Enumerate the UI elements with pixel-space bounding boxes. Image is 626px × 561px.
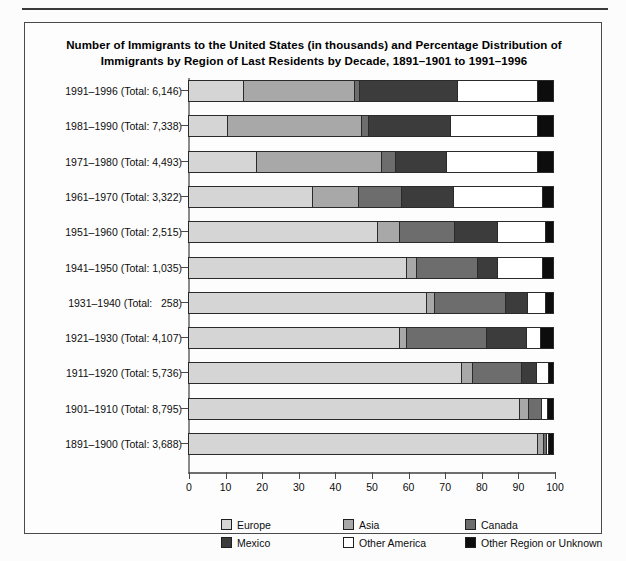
stacked-bar[interactable] bbox=[188, 362, 554, 384]
bar-segment-asia[interactable] bbox=[228, 116, 362, 136]
bar-segment-other-region-or-unknown[interactable] bbox=[548, 399, 553, 419]
bar-row-label: 1961–1970 (Total: 3,322) bbox=[0, 186, 182, 208]
bar-segment-other-america[interactable] bbox=[537, 363, 550, 383]
bar-segment-other-region-or-unknown[interactable] bbox=[538, 152, 553, 172]
bar-segment-asia[interactable] bbox=[244, 81, 355, 101]
bar-segment-mexico[interactable] bbox=[402, 187, 454, 207]
y-axis-tick bbox=[181, 125, 188, 126]
stacked-bar[interactable] bbox=[188, 80, 554, 102]
legend-swatch-icon bbox=[221, 519, 232, 530]
bar-segment-europe[interactable] bbox=[189, 187, 313, 207]
bar-segment-asia[interactable] bbox=[400, 328, 407, 348]
bar-segment-other-america[interactable] bbox=[498, 222, 545, 242]
bar-segment-canada[interactable] bbox=[473, 363, 522, 383]
bar-row-label: 1911–1920 (Total: 5,736) bbox=[0, 362, 182, 384]
x-axis-tick bbox=[335, 472, 336, 479]
bar-segment-asia[interactable] bbox=[427, 293, 436, 313]
legend-item-asia[interactable]: Asia bbox=[343, 519, 465, 531]
stacked-bar[interactable] bbox=[188, 327, 554, 349]
bar-segment-other-region-or-unknown[interactable] bbox=[546, 222, 553, 242]
stacked-bar[interactable] bbox=[188, 115, 554, 137]
bar-segment-europe[interactable] bbox=[189, 293, 427, 313]
bar-segment-other-region-or-unknown[interactable] bbox=[538, 81, 553, 101]
bar-segment-europe[interactable] bbox=[189, 152, 257, 172]
bar-segment-europe[interactable] bbox=[189, 116, 228, 136]
bar-segment-other-america[interactable] bbox=[454, 187, 544, 207]
chart-title-line-1: Number of Immigrants to the United State… bbox=[66, 39, 562, 51]
y-axis-tick bbox=[181, 372, 188, 373]
y-axis-tick bbox=[181, 302, 188, 303]
bar-segment-other-region-or-unknown[interactable] bbox=[543, 258, 553, 278]
y-axis-tick bbox=[181, 196, 188, 197]
bar-segment-canada[interactable] bbox=[400, 222, 455, 242]
bar-segment-other-region-or-unknown[interactable] bbox=[543, 187, 553, 207]
bar-segment-asia[interactable] bbox=[462, 363, 473, 383]
bar-segment-mexico[interactable] bbox=[369, 116, 451, 136]
bar-segment-asia[interactable] bbox=[520, 399, 529, 419]
stacked-bar[interactable] bbox=[188, 186, 554, 208]
bar-segment-europe[interactable] bbox=[189, 399, 520, 419]
legend-item-label: Other America bbox=[359, 537, 426, 549]
bar-segment-asia[interactable] bbox=[257, 152, 382, 172]
bar-segment-asia[interactable] bbox=[378, 222, 400, 242]
bar-segment-europe[interactable] bbox=[189, 222, 378, 242]
bar-segment-mexico[interactable] bbox=[396, 152, 447, 172]
bar-segment-other-america[interactable] bbox=[447, 152, 538, 172]
bar-segment-other-america[interactable] bbox=[528, 293, 546, 313]
bar-segment-mexico[interactable] bbox=[487, 328, 527, 348]
bar-segment-other-america[interactable] bbox=[451, 116, 538, 136]
bar-segment-europe[interactable] bbox=[189, 363, 462, 383]
bar-segment-other-america[interactable] bbox=[458, 81, 538, 101]
stacked-bar[interactable] bbox=[188, 292, 554, 314]
bar-row-label: 1981–1990 (Total: 7,338) bbox=[0, 115, 182, 137]
bar-row-label: 1951–1960 (Total: 2,515) bbox=[0, 221, 182, 243]
x-axis-tick-label: 90 bbox=[498, 481, 538, 493]
bar-segment-other-america[interactable] bbox=[498, 258, 543, 278]
bar-segment-mexico[interactable] bbox=[360, 81, 458, 101]
x-axis-tick-label: 20 bbox=[242, 481, 282, 493]
y-axis-tick bbox=[181, 408, 188, 409]
bar-segment-asia[interactable] bbox=[407, 258, 416, 278]
bar-segment-canada[interactable] bbox=[529, 399, 542, 419]
bar-segment-mexico[interactable] bbox=[478, 258, 498, 278]
legend-item-other-america[interactable]: Other America bbox=[343, 537, 465, 549]
bar-segment-other-america[interactable] bbox=[527, 328, 540, 348]
stacked-bar[interactable] bbox=[188, 221, 554, 243]
bar-row-label: 1971–1980 (Total: 4,493) bbox=[0, 151, 182, 173]
bar-segment-canada[interactable] bbox=[362, 116, 369, 136]
x-axis-tick-label: 10 bbox=[206, 481, 246, 493]
bar-segment-canada[interactable] bbox=[407, 328, 487, 348]
legend-item-europe[interactable]: Europe bbox=[221, 519, 343, 531]
y-axis-tick bbox=[181, 267, 188, 268]
bar-segment-europe[interactable] bbox=[189, 328, 400, 348]
bar-segment-mexico[interactable] bbox=[522, 363, 537, 383]
legend-item-label: Canada bbox=[481, 519, 518, 531]
bar-segment-mexico[interactable] bbox=[506, 293, 528, 313]
bar-segment-canada[interactable] bbox=[382, 152, 397, 172]
bar-segment-other-region-or-unknown[interactable] bbox=[546, 293, 553, 313]
bar-segment-other-region-or-unknown[interactable] bbox=[541, 328, 553, 348]
x-axis-tick bbox=[299, 472, 300, 479]
bar-row: 1941–1950 (Total: 1,035) bbox=[188, 257, 554, 279]
bar-segment-other-region-or-unknown[interactable] bbox=[549, 363, 553, 383]
legend-item-canada[interactable]: Canada bbox=[465, 519, 518, 531]
bar-segment-other-region-or-unknown[interactable] bbox=[538, 116, 553, 136]
x-axis-tick-label: 80 bbox=[462, 481, 502, 493]
bar-segment-canada[interactable] bbox=[359, 187, 402, 207]
plot-area: 1991–1996 (Total: 6,146)1981–1990 (Total… bbox=[188, 80, 554, 468]
legend-item-other-region-or-unknown[interactable]: Other Region or Unknown bbox=[465, 537, 602, 549]
bar-segment-europe[interactable] bbox=[189, 81, 244, 101]
stacked-bar[interactable] bbox=[188, 433, 554, 455]
bar-segment-canada[interactable] bbox=[417, 258, 479, 278]
bar-segment-canada[interactable] bbox=[435, 293, 505, 313]
legend-item-mexico[interactable]: Mexico bbox=[221, 537, 343, 549]
stacked-bar[interactable] bbox=[188, 151, 554, 173]
bar-segment-europe[interactable] bbox=[189, 258, 407, 278]
stacked-bar[interactable] bbox=[188, 257, 554, 279]
bar-segment-other-region-or-unknown[interactable] bbox=[549, 434, 553, 454]
bar-segment-europe[interactable] bbox=[189, 434, 538, 454]
bar-segment-asia[interactable] bbox=[313, 187, 359, 207]
stacked-bar[interactable] bbox=[188, 398, 554, 420]
bar-segment-mexico[interactable] bbox=[455, 222, 499, 242]
x-axis-tick-label: 100 bbox=[535, 481, 575, 493]
